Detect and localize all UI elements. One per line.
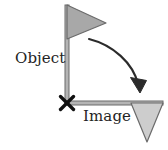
image-flag-triangle — [131, 103, 163, 142]
figure-container: Object Image — [0, 0, 168, 150]
diagram-canvas — [0, 0, 168, 150]
object-label: Object — [15, 51, 65, 66]
object-triangle-shape — [67, 5, 106, 39]
image-triangle-shape — [131, 103, 163, 142]
image-label: Image — [83, 109, 131, 124]
rotation-arrowhead — [131, 78, 147, 94]
rotation-arrow — [89, 39, 147, 93]
object-flag-triangle — [67, 5, 106, 39]
